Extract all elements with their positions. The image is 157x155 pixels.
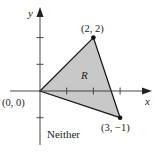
x-axis-arrow-icon	[142, 88, 152, 95]
vertex-label-2-2: (2, 2)	[81, 23, 104, 35]
x-axis-label: x	[144, 95, 150, 107]
caption-neither: Neither	[47, 128, 80, 140]
vertex-dot-2	[118, 115, 123, 120]
vertex-dot-1	[91, 35, 96, 40]
y-axis-arrow-icon	[37, 7, 44, 17]
vertex-label-origin: (0, 0)	[2, 97, 25, 109]
region-diagram: y x R (0, 0) (2, 2) (3, −1) Neither	[0, 0, 157, 155]
region-label: R	[80, 69, 88, 81]
y-axis-label: y	[27, 7, 33, 19]
vertex-label-3-neg1: (3, −1)	[101, 122, 130, 134]
